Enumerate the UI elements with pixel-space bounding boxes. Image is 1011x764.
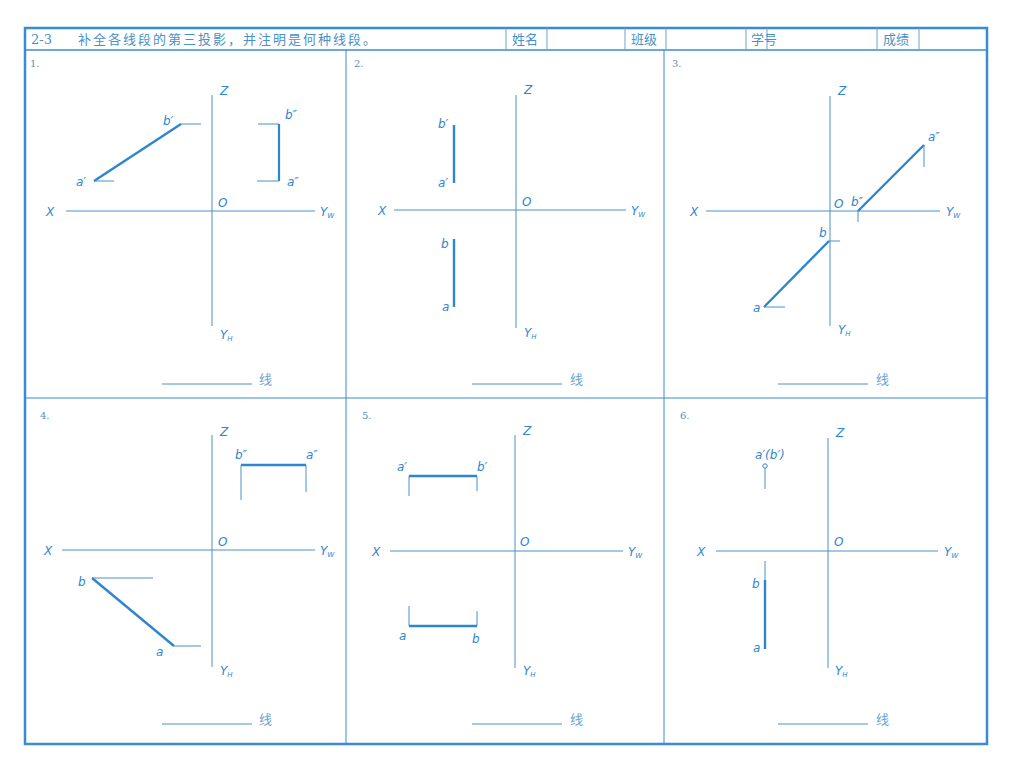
svg-text:YH: YH bbox=[523, 664, 536, 679]
svg-text:a: a bbox=[156, 645, 163, 659]
outer-frame bbox=[25, 28, 987, 744]
svg-text:b″: b″ bbox=[851, 195, 864, 209]
svg-text:O: O bbox=[522, 195, 531, 209]
svg-text:O: O bbox=[218, 535, 227, 549]
svg-text:6.: 6. bbox=[680, 410, 690, 421]
svg-text:YW: YW bbox=[946, 205, 961, 220]
problem-2: 2. Z O X YW YH b′ a′ b a 线 bbox=[354, 58, 646, 387]
problem-1: 1. Z O X YW YH a′ b′ b″ a″ 线 bbox=[30, 58, 335, 387]
name-field[interactable] bbox=[548, 30, 628, 50]
svg-text:线: 线 bbox=[570, 372, 583, 387]
svg-text:X: X bbox=[371, 545, 381, 559]
svg-text:b: b bbox=[819, 226, 827, 240]
svg-text:2.: 2. bbox=[354, 58, 364, 69]
svg-text:b″: b″ bbox=[235, 448, 248, 462]
svg-text:YH: YH bbox=[835, 664, 848, 679]
svg-text:YH: YH bbox=[838, 323, 851, 338]
answer-input-3[interactable] bbox=[778, 368, 872, 385]
svg-text:b: b bbox=[752, 577, 760, 591]
svg-text:a′: a′ bbox=[438, 176, 448, 190]
student-id-field[interactable] bbox=[768, 30, 880, 50]
svg-text:YW: YW bbox=[631, 204, 646, 219]
problem-3: 3. Z O X YW YH a″ b″ b a 线 bbox=[672, 58, 961, 387]
name-field-label: 姓名 bbox=[512, 32, 538, 47]
svg-text:O: O bbox=[834, 197, 843, 211]
svg-text:a: a bbox=[399, 629, 406, 643]
svg-text:b: b bbox=[441, 237, 449, 251]
svg-text:YH: YH bbox=[220, 664, 233, 679]
svg-text:b′: b′ bbox=[163, 114, 174, 128]
answer-input-1[interactable] bbox=[162, 368, 256, 385]
svg-text:1.: 1. bbox=[30, 58, 40, 69]
svg-text:YH: YH bbox=[220, 328, 233, 343]
svg-text:a: a bbox=[753, 641, 760, 655]
svg-text:X: X bbox=[45, 205, 55, 219]
svg-text:Z: Z bbox=[219, 425, 229, 439]
exercise-title: 补全各线段的第三投影，并注明是何种线段。 bbox=[78, 32, 378, 47]
class-field-label: 班级 bbox=[631, 32, 657, 47]
answer-input-4[interactable] bbox=[162, 708, 256, 725]
svg-text:a: a bbox=[442, 300, 449, 314]
class-field[interactable] bbox=[667, 30, 749, 50]
svg-text:b″: b″ bbox=[285, 108, 298, 122]
svg-text:5.: 5. bbox=[362, 410, 372, 421]
svg-text:a″: a″ bbox=[306, 448, 318, 462]
svg-text:X: X bbox=[689, 205, 699, 219]
svg-text:YW: YW bbox=[628, 545, 643, 560]
svg-text:Z: Z bbox=[523, 83, 533, 97]
coincident-point-marker bbox=[763, 464, 767, 468]
svg-text:Z: Z bbox=[835, 426, 845, 440]
svg-text:YH: YH bbox=[524, 326, 537, 341]
svg-text:O: O bbox=[218, 196, 227, 210]
answer-input-6[interactable] bbox=[778, 708, 872, 725]
svg-text:X: X bbox=[43, 544, 53, 558]
svg-text:线: 线 bbox=[876, 712, 889, 727]
grade-field[interactable] bbox=[920, 30, 990, 50]
svg-text:X: X bbox=[696, 545, 706, 559]
grade-field-label: 成绩 bbox=[883, 32, 909, 47]
svg-text:a′: a′ bbox=[397, 460, 407, 474]
svg-text:线: 线 bbox=[259, 372, 272, 387]
svg-text:a″: a″ bbox=[928, 130, 940, 144]
svg-text:a′(b′): a′(b′) bbox=[755, 448, 785, 462]
svg-text:Z: Z bbox=[219, 84, 229, 98]
svg-text:Z: Z bbox=[837, 84, 847, 98]
svg-text:b: b bbox=[78, 575, 86, 589]
svg-text:线: 线 bbox=[259, 712, 272, 727]
svg-text:X: X bbox=[377, 204, 387, 218]
svg-text:a′: a′ bbox=[76, 175, 86, 189]
svg-text:3.: 3. bbox=[672, 58, 682, 69]
svg-text:b′: b′ bbox=[438, 117, 449, 131]
svg-text:b: b bbox=[472, 632, 480, 646]
svg-text:Z: Z bbox=[522, 424, 532, 438]
problem-6: 6. Z O X YW YH a′(b′) b a 线 bbox=[680, 410, 959, 727]
problem-4: 4. Z O X YW YH b″ a″ b a 线 bbox=[40, 410, 335, 727]
svg-text:O: O bbox=[520, 535, 529, 549]
svg-text:YW: YW bbox=[320, 544, 335, 559]
svg-text:YW: YW bbox=[320, 205, 335, 220]
answer-input-2[interactable] bbox=[472, 368, 566, 385]
svg-text:O: O bbox=[834, 535, 843, 549]
exercise-number: 2-3 bbox=[31, 32, 52, 47]
svg-text:线: 线 bbox=[876, 372, 889, 387]
svg-text:YW: YW bbox=[944, 545, 959, 560]
problem-5: 5. Z O X YW YH a′ b′ a b 线 bbox=[362, 410, 643, 727]
svg-text:线: 线 bbox=[570, 712, 583, 727]
answer-input-5[interactable] bbox=[472, 708, 566, 725]
svg-text:b′: b′ bbox=[477, 460, 488, 474]
svg-text:a″: a″ bbox=[287, 175, 299, 189]
svg-text:4.: 4. bbox=[40, 410, 50, 421]
svg-text:a: a bbox=[753, 301, 760, 315]
